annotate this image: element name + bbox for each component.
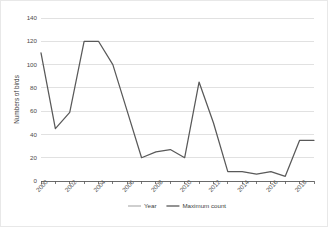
y-axis-tick-label: 140 — [27, 14, 38, 21]
x-axis-tick-label: 2002 — [63, 178, 78, 193]
y-axis-tick-label: 20 — [30, 154, 37, 161]
plot-area: 020406080100120140 200020022004200620082… — [1, 1, 328, 227]
y-axis-title: Numbers of birds — [13, 75, 20, 124]
x-axis-tick-label: 2004 — [92, 178, 107, 193]
x-axis-tick-label: 2008 — [149, 178, 164, 193]
x-axis-tick-label: 2018 — [293, 178, 308, 193]
line-chart-svg: 020406080100120140 200020022004200620082… — [1, 1, 328, 227]
chart-legend: YearMaximum count — [128, 202, 226, 209]
legend-label: Maximum count — [182, 202, 226, 209]
gridlines-group — [41, 18, 314, 158]
x-axis-tick-label: 2014 — [236, 178, 251, 193]
y-axis-tick-label: 120 — [27, 37, 38, 44]
y-axis-tick-label: 0 — [34, 177, 38, 184]
series-line-maximum-count — [41, 41, 314, 176]
x-axis-tick-label: 2016 — [264, 178, 279, 193]
chart-figure: 020406080100120140 200020022004200620082… — [0, 0, 328, 227]
y-axis-tick-label: 60 — [30, 107, 37, 114]
x-axis-tick-label: 2012 — [207, 178, 222, 193]
x-axis-tick-label: 2010 — [178, 178, 193, 193]
y-axis-tick-labels: 020406080100120140 — [27, 14, 38, 184]
legend-label: Year — [144, 202, 157, 209]
y-axis-tick-label: 100 — [27, 61, 38, 68]
y-axis-tick-label: 80 — [30, 84, 37, 91]
y-axis-tick-label: 40 — [30, 131, 37, 138]
x-axis-tick-label: 2006 — [121, 178, 136, 193]
x-axis-tick-labels: 2000200220042006200820102012201420162018 — [34, 178, 308, 193]
